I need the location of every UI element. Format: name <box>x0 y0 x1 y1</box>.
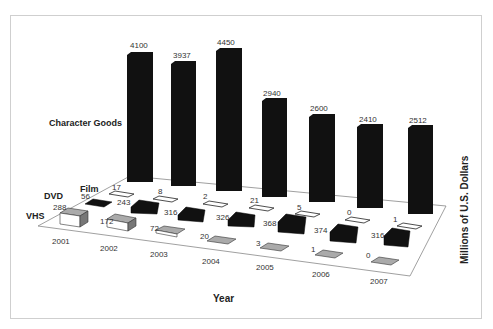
value-label: 374 <box>314 226 328 235</box>
value-label: 1 <box>311 245 316 254</box>
year-tick: 2004 <box>202 257 220 266</box>
value-label: 2600 <box>310 104 328 113</box>
year-tick: 2006 <box>312 270 330 279</box>
year-tick: 2007 <box>370 277 388 286</box>
year-tick: 2002 <box>100 244 118 253</box>
value-label: 72 <box>150 224 159 233</box>
value-label: 5 <box>297 203 302 212</box>
value-label: 243 <box>117 198 131 207</box>
bar-char-2005 <box>309 114 335 202</box>
bar-char-2006 <box>357 124 383 208</box>
value-label: 2940 <box>263 89 281 98</box>
value-label: 326 <box>216 213 230 222</box>
value-label: 0 <box>366 251 371 260</box>
value-label: 0 <box>347 208 352 217</box>
value-label: 3937 <box>173 51 191 60</box>
year-tick: 2001 <box>52 237 70 246</box>
value-label: 1 <box>393 215 398 224</box>
value-label: 172 <box>100 217 114 226</box>
value-label: 20 <box>200 232 209 241</box>
value-label: 2512 <box>409 116 427 125</box>
bar-char-2003 <box>216 48 242 191</box>
value-label: 316 <box>371 231 385 240</box>
chart-canvas: 4100 3937 4450 2940 2600 2410 2512 17 8 … <box>0 0 493 329</box>
series-label-dvd: DVD <box>44 191 64 201</box>
value-label: 17 <box>112 183 121 192</box>
value-label: 2 <box>203 192 208 201</box>
year-tick: 2005 <box>256 263 274 272</box>
bar-char-2002 <box>171 61 196 186</box>
value-label: 316 <box>164 208 178 217</box>
value-label: 4100 <box>130 41 148 50</box>
x-axis-title: Year <box>213 293 234 304</box>
value-label: 8 <box>158 187 163 196</box>
value-label: 288 <box>53 203 67 212</box>
value-label: 2410 <box>359 115 377 124</box>
value-label: 368 <box>263 219 277 228</box>
bar-char-2001 <box>127 52 153 182</box>
year-tick: 2003 <box>150 250 168 259</box>
series-label-character-goods: Character Goods <box>49 118 122 128</box>
y-axis-title: Millions of U.S. Dollars <box>459 155 470 264</box>
value-label: 4450 <box>217 38 235 47</box>
bar-char-2004 <box>262 98 287 197</box>
value-label: 3 <box>256 239 261 248</box>
value-label: 21 <box>250 196 259 205</box>
series-label-vhs: VHS <box>26 211 45 221</box>
series-label-film: Film <box>80 184 99 194</box>
bar-char-2007 <box>408 125 433 214</box>
